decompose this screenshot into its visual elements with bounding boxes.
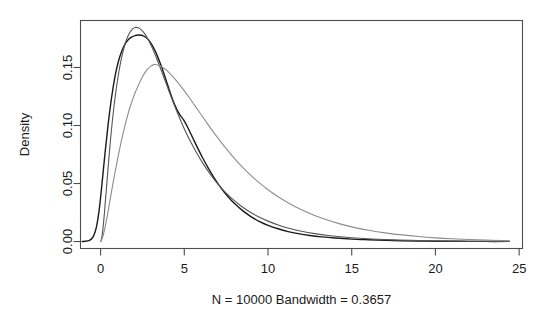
y-axis-tick-label: 0.00 [60, 229, 75, 254]
x-axis-tick-label: 5 [181, 261, 188, 276]
density-curve-black [82, 35, 509, 242]
density-plot-svg: 05101520250.000.050.100.15DensityN = 100… [0, 0, 545, 333]
x-axis-tick-label: 25 [512, 261, 526, 276]
density-curve-gray-tall [101, 27, 509, 241]
y-axis-title: Density [17, 112, 32, 156]
y-axis-tick-label: 0.05 [60, 171, 75, 196]
plot-frame [81, 21, 523, 249]
y-axis-tick-label: 0.10 [60, 113, 75, 138]
density-curve-gray-wide [101, 65, 509, 242]
y-axis-tick-label: 0.15 [60, 55, 75, 80]
density-plot-figure: 05101520250.000.050.100.15DensityN = 100… [0, 0, 545, 333]
x-axis-tick-label: 15 [344, 261, 358, 276]
x-axis-tick-label: 0 [97, 261, 104, 276]
x-axis-tick-label: 20 [428, 261, 442, 276]
x-axis-title: N = 10000 Bandwidth = 0.3657 [212, 292, 391, 307]
x-axis-tick-label: 10 [261, 261, 275, 276]
